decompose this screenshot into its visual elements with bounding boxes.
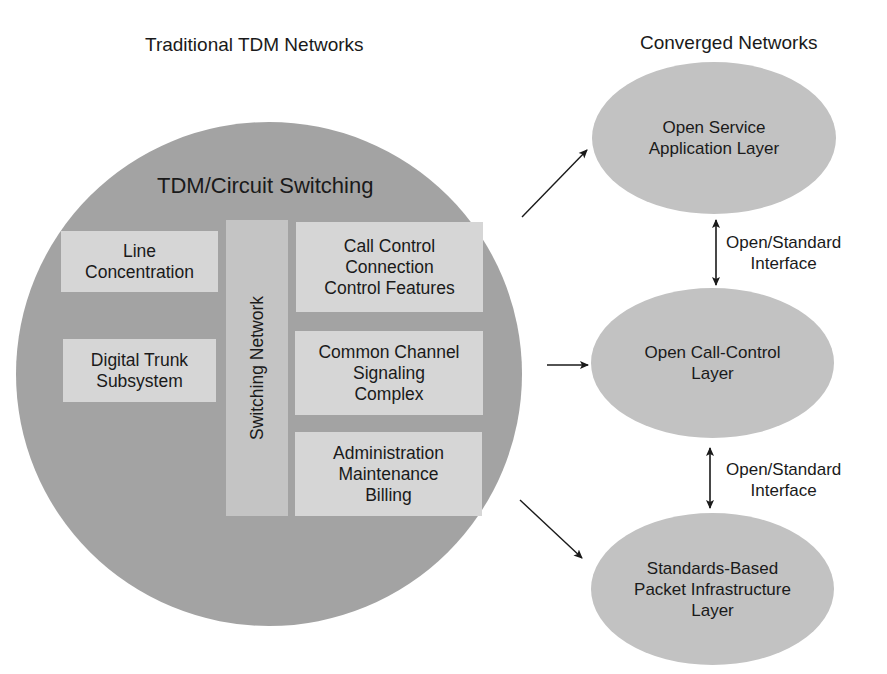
arrows-layer xyxy=(0,0,887,674)
arrow-to-packet-layer xyxy=(520,500,582,558)
arrow-to-application-layer xyxy=(522,150,587,217)
